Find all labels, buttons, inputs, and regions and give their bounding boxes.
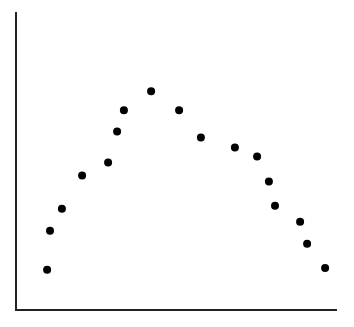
data-point <box>147 87 155 95</box>
scatter-chart <box>0 0 354 327</box>
data-point <box>265 178 273 186</box>
data-point <box>120 106 128 114</box>
data-point <box>104 159 112 167</box>
data-point <box>296 218 304 226</box>
data-points <box>43 87 329 273</box>
data-point <box>113 128 121 136</box>
data-point <box>43 266 51 274</box>
data-point <box>231 144 239 152</box>
data-point <box>58 205 66 213</box>
data-point <box>175 106 183 114</box>
data-point <box>46 227 54 235</box>
data-point <box>271 202 279 210</box>
data-point <box>321 264 329 272</box>
data-point <box>303 240 311 248</box>
data-point <box>78 172 86 180</box>
data-point <box>197 134 205 142</box>
data-point <box>253 153 261 161</box>
